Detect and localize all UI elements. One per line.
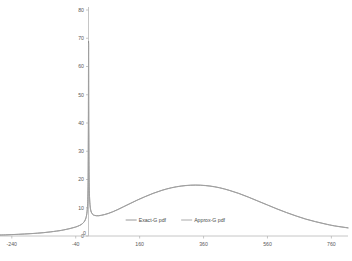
y-axis-ticks: 01020304050607080: [78, 7, 88, 239]
x-axis-ticks: -240-401603605607600: [7, 230, 336, 247]
data-series-group: [0, 41, 348, 235]
y-tick-label: 40: [78, 120, 84, 126]
y-tick-label: 50: [78, 92, 84, 98]
x-tick-label: 160: [135, 241, 144, 247]
legend-label: Approx-G pdf: [194, 217, 225, 223]
legend-label: Exact-G pdf: [139, 217, 167, 223]
origin-tick-label: 0: [83, 230, 86, 236]
x-tick-label: 360: [199, 241, 208, 247]
x-tick-label: 760: [327, 241, 336, 247]
y-tick-label: 70: [78, 35, 84, 41]
y-axis: 01020304050607080: [78, 7, 88, 239]
y-tick-label: 80: [78, 7, 84, 13]
y-tick-label: 10: [78, 205, 84, 211]
y-tick-label: 20: [78, 176, 84, 182]
y-tick-label: 60: [78, 63, 84, 69]
line-chart: 01020304050607080 -240-401603605607600 E…: [0, 0, 352, 261]
x-tick-label: -240: [7, 241, 17, 247]
series-line: [0, 43, 348, 235]
series-line: [0, 41, 348, 235]
x-tick-label: -40: [72, 241, 80, 247]
chart-legend: Exact-G pdfApprox-G pdf: [126, 217, 226, 223]
chart-container: 01020304050607080 -240-401603605607600 E…: [0, 0, 352, 261]
x-tick-label: 560: [263, 241, 272, 247]
y-tick-label: 30: [78, 148, 84, 154]
